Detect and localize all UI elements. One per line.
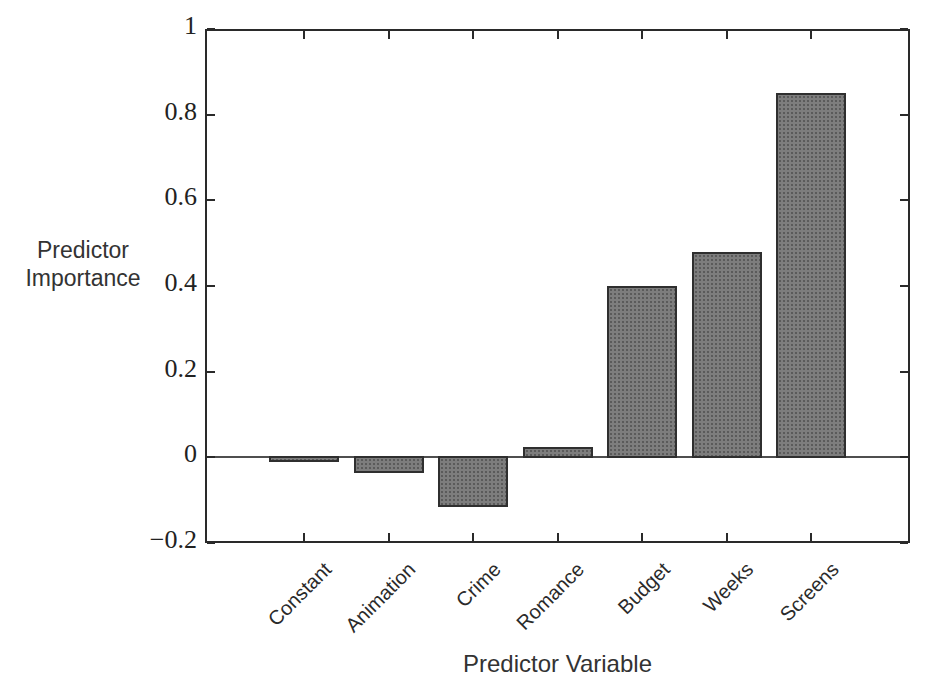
y-tick-label: 0 [184, 441, 197, 467]
bar-chart-figure: Predictor Importance 10.80.60.40.20−0.2C… [0, 0, 934, 696]
x-tick-top [472, 31, 474, 39]
x-tick-label-screens: Screens [775, 558, 842, 625]
y-tick-right [900, 542, 908, 544]
x-tick-top [557, 31, 559, 39]
y-tick-left [207, 285, 215, 287]
x-tick-top [303, 31, 305, 39]
y-tick-label: 0.2 [165, 356, 198, 382]
y-tick-left [207, 114, 215, 116]
x-tick-bottom [641, 533, 643, 541]
plot-area: 10.80.60.40.20−0.2ConstantAnimationCrime… [0, 0, 934, 696]
y-tick-label: 0.8 [165, 99, 198, 125]
bar-animation [354, 456, 424, 473]
y-tick-label: −0.2 [150, 527, 197, 553]
bar-screens [776, 93, 846, 458]
y-tick-left [207, 28, 215, 30]
x-tick-label-constant: Constant [263, 558, 335, 630]
y-tick-left [207, 199, 215, 201]
x-tick-bottom [557, 533, 559, 541]
y-tick-right [900, 28, 908, 30]
x-tick-top [388, 31, 390, 39]
bar-budget [607, 286, 677, 458]
x-tick-bottom [388, 533, 390, 541]
axis-right [908, 29, 910, 543]
x-tick-bottom [472, 533, 474, 541]
x-tick-label-romance: Romance [512, 558, 588, 634]
y-tick-left [207, 456, 215, 458]
y-tick-right [900, 456, 908, 458]
x-tick-bottom [726, 533, 728, 541]
x-tick-label-budget: Budget [613, 558, 673, 618]
x-tick-top [810, 31, 812, 39]
bar-romance [523, 447, 593, 458]
y-tick-left [207, 542, 215, 544]
x-tick-top [726, 31, 728, 39]
y-tick-right [900, 114, 908, 116]
y-tick-label: 0.4 [165, 270, 198, 296]
x-tick-label-crime: Crime [451, 558, 504, 611]
x-tick-label-animation: Animation [341, 558, 419, 636]
x-axis-label: Predictor Variable [205, 650, 910, 678]
bar-crime [438, 456, 508, 507]
x-tick-top [641, 31, 643, 39]
y-tick-right [900, 285, 908, 287]
y-tick-right [900, 371, 908, 373]
y-tick-label: 1 [184, 13, 197, 39]
axis-bottom [205, 541, 910, 543]
y-tick-label: 0.6 [165, 184, 198, 210]
y-tick-right [900, 199, 908, 201]
y-tick-left [207, 371, 215, 373]
bar-weeks [692, 252, 762, 458]
bar-constant [269, 456, 339, 462]
x-tick-bottom [303, 533, 305, 541]
x-tick-label-weeks: Weeks [699, 558, 758, 617]
x-tick-bottom [810, 533, 812, 541]
